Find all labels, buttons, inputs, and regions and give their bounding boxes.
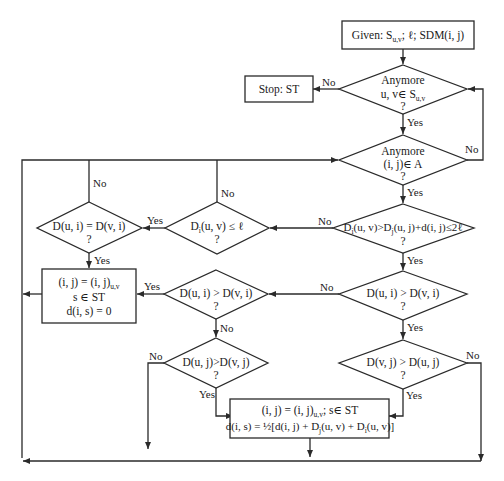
svg-text:D(u, i) > D(v, i): D(u, i) > D(v, i) [180,287,253,300]
svg-text:?: ? [400,100,405,112]
svg-text:D(u, i) = D(v, i): D(u, i) = D(v, i) [53,220,126,233]
svg-text:?: ? [400,300,405,312]
decision-duj-gt-dvj: D(u, j)>D(v, j) ? [164,338,268,388]
yes-label: Yes [407,254,423,266]
svg-text:D(u, j)>D(v, j): D(u, j)>D(v, j) [182,356,249,369]
no-label: No [322,76,336,88]
svg-text:?: ? [400,235,405,247]
no-label: No [318,215,332,227]
yes-label: Yes [407,186,423,198]
assign-box-half-sum: (i, j) = (i, j)u,v; s∈ ST d(i, s) = ½[d(… [226,399,395,438]
no-label: No [149,350,163,362]
yes-label: Yes [407,116,423,128]
yes-label: Yes [147,214,163,226]
svg-text:?: ? [214,233,219,245]
assign-box-zero: (i, j) = (i, j)u,v s ∈ ST d(i, s) = 0 [42,269,136,323]
decision-anymore-uv: Anymore u, v∈ Su,v ? [339,65,467,114]
connector [389,389,403,416]
decision-anymore-ij: Anymore (i, j)∈ A ? [339,135,467,185]
svg-text:Stop: ST: Stop: ST [259,83,300,96]
svg-text:?: ? [400,369,405,381]
svg-text:?: ? [86,233,91,245]
connector [467,363,481,461]
svg-text:Anymore: Anymore [381,74,424,87]
decision-dvj-gt-duj: D(v, j) > D(u, j) ? [339,340,467,389]
no-label: No [466,349,480,361]
stop-box: Stop: ST [245,76,313,102]
yes-label: Yes [94,254,110,266]
yes-label: Yes [144,280,160,292]
no-label: No [465,143,479,155]
start-box: Given: Su,v; ℓ; SDM(i, j) [342,21,474,49]
decision-dui-gt-dvi-left: D(u, i) > D(v, i) ? [164,270,268,319]
flowchart: Given: Su,v; ℓ; SDM(i, j) Anymore u, v∈ … [0,0,504,481]
svg-text:?: ? [400,170,405,182]
yes-label: Yes [407,321,423,333]
connector [148,363,164,449]
svg-text:d(i, s) = 0: d(i, s) = 0 [67,305,112,318]
decision-di-le-l: Di(u, v) ≤ ℓ ? [165,202,269,254]
svg-text:Anymore: Anymore [381,145,424,158]
svg-text:D(u, i) > D(v, i): D(u, i) > D(v, i) [367,287,440,300]
decision-dui-gt-dvi-right: D(u, i) > D(v, i) ? [339,271,467,320]
svg-text:?: ? [213,369,218,381]
no-label: No [93,177,107,189]
yes-label: Yes [199,388,215,400]
no-label: No [220,322,234,334]
svg-text:?: ? [213,300,218,312]
no-label: No [221,187,235,199]
no-label: No [320,281,334,293]
svg-text:s ∈ ST: s ∈ ST [73,291,105,303]
decision-distance-condition: Di(u, v)>Dj(u, j)+d(i, j)≤2ℓ ? [333,204,474,253]
svg-text:D(v, j) > D(u, j): D(v, j) > D(u, j) [367,356,440,369]
yes-label: Yes [406,389,422,401]
decision-dui-eq-dvi: D(u, i) = D(v, i) ? [37,202,142,253]
